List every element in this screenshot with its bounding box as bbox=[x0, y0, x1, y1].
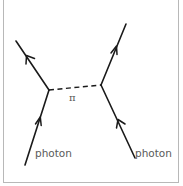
right-photon-label: photon bbox=[135, 148, 172, 159]
pion-exchange-line bbox=[49, 85, 101, 90]
left-photon-label: photon bbox=[35, 148, 72, 159]
right-outgoing-line bbox=[101, 24, 126, 85]
pion-label: π bbox=[69, 93, 76, 103]
left-outgoing-line bbox=[16, 41, 49, 90]
